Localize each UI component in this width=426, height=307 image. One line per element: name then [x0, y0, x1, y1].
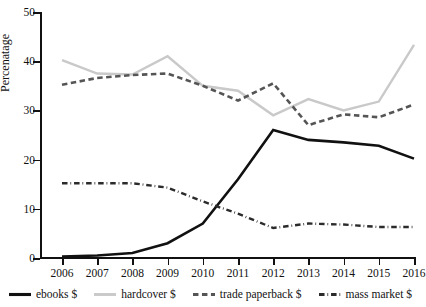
- series-line-mass-market: [62, 183, 414, 228]
- x-tick-2010: [203, 258, 205, 265]
- solid-gray-line-icon: [94, 289, 116, 300]
- x-tick-2006: [62, 258, 64, 265]
- x-tick-label-2007: 2007: [86, 267, 109, 279]
- x-tick-2008: [132, 258, 134, 265]
- x-tick-label-2013: 2013: [297, 267, 320, 279]
- x-tick-2007: [97, 258, 99, 265]
- dashed-gray-line-icon: [193, 289, 215, 300]
- dashdot-black-line-icon: [319, 289, 341, 300]
- x-tick-label-2012: 2012: [262, 267, 285, 279]
- x-tick-2012: [273, 258, 275, 265]
- x-tick-label-2016: 2016: [403, 267, 426, 279]
- x-tick-2016: [414, 258, 416, 265]
- y-axis-title: Percenatage: [0, 34, 13, 92]
- x-tick-2011: [238, 258, 240, 265]
- legend-item-hardcover[interactable]: hardcover $: [94, 288, 176, 300]
- series-line-hardcover: [62, 45, 414, 115]
- series-lines: [40, 12, 415, 258]
- legend-label: trade paperback $: [220, 288, 302, 300]
- legend-label: ebooks $: [36, 288, 77, 300]
- x-tick-label-2011: 2011: [227, 267, 250, 279]
- y-tick-label-0: 0: [29, 252, 35, 264]
- series-line-trade-paperback: [62, 74, 414, 126]
- x-tick-label-2008: 2008: [121, 267, 144, 279]
- x-tick-2015: [379, 258, 381, 265]
- y-tick-label-50: 50: [24, 6, 36, 18]
- legend-label: hardcover $: [121, 288, 176, 300]
- x-tick-label-2006: 2006: [51, 267, 74, 279]
- legend-item-mass-market[interactable]: mass market $: [319, 288, 412, 300]
- y-tick-label-10: 10: [24, 203, 36, 215]
- legend-label: mass market $: [346, 288, 412, 300]
- y-tick-label-20: 20: [24, 153, 36, 165]
- x-tick-label-2009: 2009: [156, 267, 179, 279]
- x-tick-label-2015: 2015: [367, 267, 390, 279]
- plot-area: 01020304050 2006200720082009201020112012…: [40, 12, 415, 258]
- legend-item-ebooks[interactable]: ebooks $: [9, 288, 77, 300]
- chart-legend: ebooks $hardcover $trade paperback $mass…: [0, 283, 421, 305]
- solid-black-line-icon: [9, 289, 31, 300]
- y-tick-label-40: 40: [24, 55, 36, 67]
- y-tick-label-30: 30: [24, 104, 36, 116]
- x-tick-2013: [308, 258, 310, 265]
- series-line-ebooks: [62, 130, 414, 256]
- x-tick-label-2010: 2010: [191, 267, 214, 279]
- x-tick-2014: [344, 258, 346, 265]
- legend-item-trade-paperback[interactable]: trade paperback $: [193, 288, 302, 300]
- x-tick-label-2014: 2014: [332, 267, 355, 279]
- x-tick-2009: [168, 258, 170, 265]
